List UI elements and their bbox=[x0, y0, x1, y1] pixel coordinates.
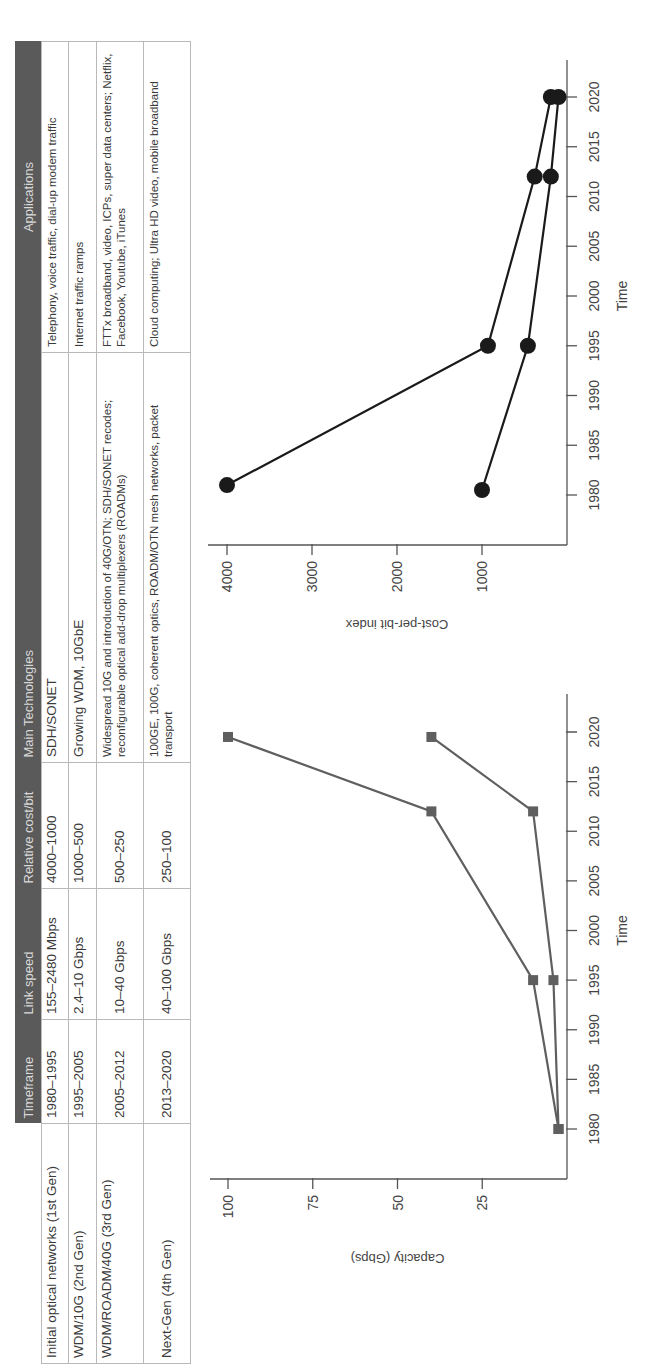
series-line bbox=[482, 97, 559, 490]
generation-cell: Next-Gen (4th Gen) bbox=[144, 1124, 191, 1364]
circle-marker bbox=[480, 338, 496, 354]
relative-cost-cell: 4000–1000 bbox=[42, 763, 69, 889]
technologies-cell: SDH/SONET bbox=[42, 353, 69, 763]
generation-cell: Initial optical networks (1st Gen) bbox=[42, 1124, 69, 1364]
table-header-row: Timeframe Link speed Relative cost/bit M… bbox=[15, 42, 42, 1364]
header-generation bbox=[15, 1124, 42, 1364]
x-tick-label: 1995 bbox=[586, 330, 602, 361]
x-axis-label: Time bbox=[614, 915, 630, 946]
x-tick-label: 2000 bbox=[586, 280, 602, 311]
timeframe-cell: 2005–2012 bbox=[97, 1020, 144, 1124]
header-link-speed: Link speed bbox=[15, 889, 42, 1020]
applications-cell: Internet traffic ramps bbox=[69, 42, 97, 353]
x-tick-label: 2020 bbox=[586, 81, 602, 112]
series-line bbox=[431, 737, 558, 1129]
x-tick-label: 2020 bbox=[586, 716, 602, 747]
timeframe-cell: 1995–2005 bbox=[69, 1020, 97, 1124]
x-tick-label: 2010 bbox=[586, 815, 602, 846]
link-speed-cell: 40–100 Gbps bbox=[144, 889, 191, 1020]
applications-cell: Cloud computing; Ultra HD video, mobile … bbox=[144, 42, 191, 353]
optical-generations-table: Timeframe Link speed Relative cost/bit M… bbox=[15, 42, 191, 1364]
y-tick-label: 100 bbox=[220, 1195, 236, 1219]
technologies-cell: Widespread 10G and introduction of 40G/O… bbox=[97, 353, 144, 763]
x-tick-label: 2005 bbox=[586, 230, 602, 261]
x-tick-label: 1995 bbox=[586, 964, 602, 995]
y-tick-label: 1000 bbox=[474, 561, 490, 592]
link-speed-cell: 2.4–10 Gbps bbox=[69, 889, 97, 1020]
capacity-chart: 198019851990199520002005201020152020Time… bbox=[190, 664, 671, 1364]
y-tick-label: 50 bbox=[390, 1195, 406, 1211]
timeframe-cell: 2013–2020 bbox=[144, 1020, 191, 1124]
circle-marker bbox=[474, 482, 490, 498]
y-tick-label: 3000 bbox=[304, 561, 320, 592]
x-tick-label: 1980 bbox=[586, 1113, 602, 1144]
link-speed-cell: 10–40 Gbps bbox=[97, 889, 144, 1020]
technologies-cell: Growing WDM, 10GbE bbox=[69, 353, 97, 763]
x-tick-label: 1990 bbox=[586, 1014, 602, 1045]
table-row: Next-Gen (4th Gen) 2013–2020 40–100 Gbps… bbox=[144, 42, 191, 1364]
y-axis-label: Capacity (Gbps) bbox=[351, 1251, 445, 1266]
link-speed-cell: 155–2480 Mbps bbox=[42, 889, 69, 1020]
square-marker bbox=[548, 975, 558, 985]
applications-cell: Telephony, voice traffic, dial-up modem … bbox=[42, 42, 69, 353]
header-applications: Applications bbox=[15, 42, 42, 353]
square-marker bbox=[528, 806, 538, 816]
square-marker bbox=[426, 806, 436, 816]
applications-cell: FTTx broadband, video, ICPs, super data … bbox=[97, 42, 144, 353]
circle-marker bbox=[551, 89, 567, 105]
relative-cost-cell: 250–100 bbox=[144, 763, 191, 889]
header-relative-cost: Relative cost/bit bbox=[15, 763, 42, 889]
square-marker bbox=[528, 975, 538, 985]
x-tick-label: 1990 bbox=[586, 380, 602, 411]
y-tick-label: 4000 bbox=[219, 561, 235, 592]
x-tick-label: 1980 bbox=[586, 479, 602, 510]
square-marker bbox=[554, 1124, 564, 1134]
x-tick-label: 2000 bbox=[586, 915, 602, 946]
x-tick-label: 1985 bbox=[586, 1064, 602, 1095]
timeframe-cell: 1980–1995 bbox=[42, 1020, 69, 1124]
x-tick-label: 2010 bbox=[586, 181, 602, 212]
technologies-cell: 100GE, 100G, coherent optics, ROADM/OTN … bbox=[144, 353, 191, 763]
table-row: WDM/ROADM/40G (3rd Gen) 2005–2012 10–40 … bbox=[97, 42, 144, 1364]
y-tick-label: 75 bbox=[305, 1195, 321, 1211]
generation-cell: WDM/10G (2nd Gen) bbox=[69, 1124, 97, 1364]
x-axis-label: Time bbox=[614, 280, 630, 311]
square-marker bbox=[223, 732, 233, 742]
x-tick-label: 2015 bbox=[586, 131, 602, 162]
y-axis-label: Cost-per-bit index bbox=[345, 617, 448, 632]
x-tick-label: 2005 bbox=[586, 865, 602, 896]
circle-marker bbox=[520, 338, 536, 354]
header-main-technologies: Main Technologies bbox=[15, 353, 42, 763]
rotated-figure: Timeframe Link speed Relative cost/bit M… bbox=[0, 0, 671, 1364]
generation-cell: WDM/ROADM/40G (3rd Gen) bbox=[97, 1124, 144, 1364]
relative-cost-cell: 1000–500 bbox=[69, 763, 97, 889]
relative-cost-cell: 500–250 bbox=[97, 763, 144, 889]
table-row: Initial optical networks (1st Gen) 1980–… bbox=[42, 42, 69, 1364]
x-tick-label: 2015 bbox=[586, 766, 602, 797]
series-line bbox=[228, 737, 559, 1129]
circle-marker bbox=[527, 169, 543, 185]
square-marker bbox=[426, 732, 436, 742]
circle-marker bbox=[543, 169, 559, 185]
cost-per-bit-chart: 198019851990199520002005201020152020Time… bbox=[190, 0, 671, 664]
y-tick-label: 2000 bbox=[389, 561, 405, 592]
table-row: WDM/10G (2nd Gen) 1995–2005 2.4–10 Gbps … bbox=[69, 42, 97, 1364]
header-timeframe: Timeframe bbox=[15, 1020, 42, 1124]
circle-marker bbox=[219, 477, 235, 493]
y-tick-label: 25 bbox=[474, 1195, 490, 1211]
x-tick-label: 1985 bbox=[586, 429, 602, 460]
